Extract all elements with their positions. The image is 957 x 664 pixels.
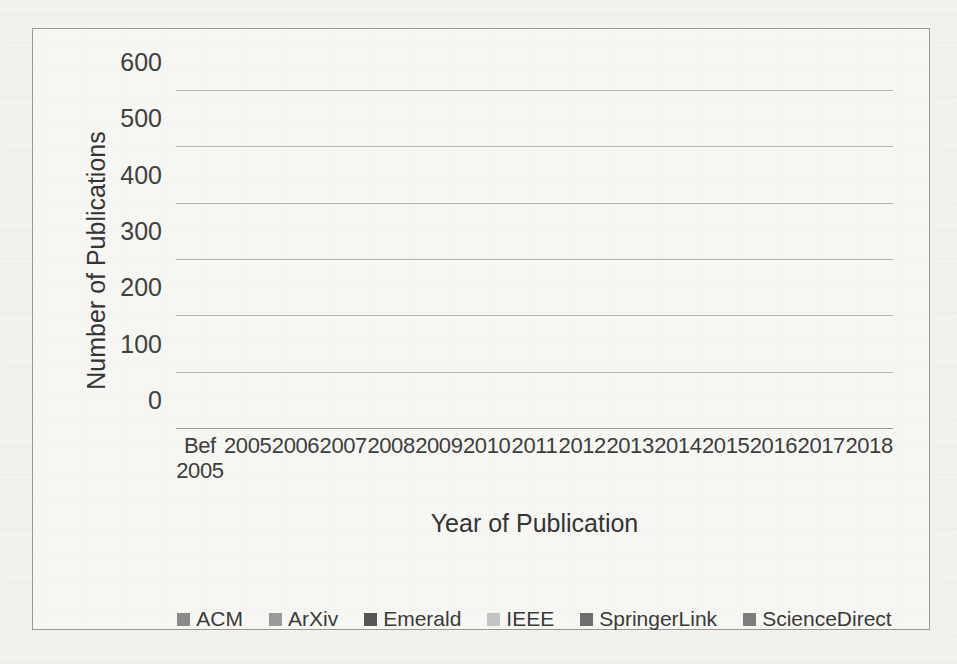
x-tick-label: 2013 — [606, 433, 654, 484]
x-tick-label: 2009 — [415, 433, 463, 484]
y-tick-label-400: 400 — [120, 160, 162, 189]
x-tick-label: 2017 — [797, 433, 845, 484]
bar-slot — [702, 91, 750, 429]
bar-slot — [415, 91, 463, 429]
bar-slot — [750, 91, 798, 429]
x-axis-tick-labels: Bef2005200520062007200820092010201120122… — [176, 433, 893, 484]
x-tick-label: 2016 — [750, 433, 798, 484]
bar-slot — [224, 91, 272, 429]
bar-slot — [511, 91, 559, 429]
bar-slot — [558, 91, 606, 429]
bar-slot — [367, 91, 415, 429]
x-tick-label: 2015 — [702, 433, 750, 484]
bar-slot — [797, 91, 845, 429]
legend-swatch-icon — [743, 613, 756, 626]
plot-area: 0100200300400500600 — [176, 91, 893, 429]
y-tick-label-100: 100 — [120, 329, 162, 358]
y-tick-label-300: 300 — [120, 217, 162, 246]
legend-label: ACM — [196, 607, 243, 631]
chart-legend: ACMArXivEmeraldIEEESpringerLinkScienceDi… — [176, 607, 893, 631]
legend-swatch-icon — [364, 613, 377, 626]
legend-item[interactable]: ArXiv — [269, 607, 338, 631]
bar-slot — [606, 91, 654, 429]
legend-label: Emerald — [383, 607, 461, 631]
legend-swatch-icon — [269, 613, 282, 626]
legend-label: SpringerLink — [599, 607, 717, 631]
legend-item[interactable]: SpringerLink — [580, 607, 717, 631]
y-tick-label-0: 0 — [148, 386, 162, 415]
bar-slot — [463, 91, 511, 429]
x-tick-label: 2014 — [654, 433, 702, 484]
x-tick-label: 2012 — [558, 433, 606, 484]
x-tick-label: 2008 — [367, 433, 415, 484]
x-axis-line — [176, 428, 893, 430]
legend-swatch-icon — [487, 613, 500, 626]
bar-slot — [319, 91, 367, 429]
x-tick-label: 2018 — [845, 433, 893, 484]
legend-label: ScienceDirect — [762, 607, 892, 631]
legend-item[interactable]: IEEE — [487, 607, 554, 631]
bar-group — [176, 91, 893, 429]
x-tick-label: 2011 — [511, 433, 559, 484]
y-tick-label-200: 200 — [120, 273, 162, 302]
y-axis-title: Number of Publications — [79, 91, 113, 429]
x-tick-label: 2005 — [224, 433, 272, 484]
y-axis-title-text: Number of Publications — [82, 131, 111, 389]
x-tick-label: 2006 — [272, 433, 320, 484]
x-axis-title: Year of Publication — [176, 509, 893, 538]
legend-swatch-icon — [177, 613, 190, 626]
y-tick-label-600: 600 — [120, 48, 162, 77]
bar-slot — [845, 91, 893, 429]
legend-label: ArXiv — [288, 607, 338, 631]
legend-item[interactable]: Emerald — [364, 607, 461, 631]
legend-item[interactable]: ScienceDirect — [743, 607, 892, 631]
x-tick-label: Bef2005 — [176, 433, 224, 484]
legend-swatch-icon — [580, 613, 593, 626]
bar-slot — [654, 91, 702, 429]
legend-label: IEEE — [506, 607, 554, 631]
x-tick-label: 2007 — [319, 433, 367, 484]
bar-slot — [272, 91, 320, 429]
y-tick-label-500: 500 — [120, 104, 162, 133]
bar-slot — [176, 91, 224, 429]
chart-frame: Number of Publications 01002003004005006… — [32, 28, 930, 630]
legend-item[interactable]: ACM — [177, 607, 243, 631]
x-tick-label: 2010 — [463, 433, 511, 484]
